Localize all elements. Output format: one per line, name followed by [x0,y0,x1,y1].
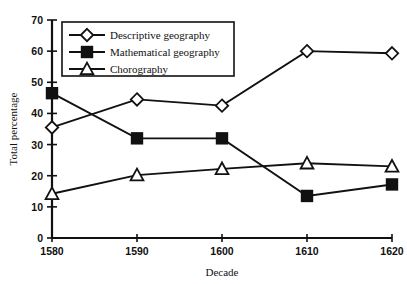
x-tick-label: 1600 [210,245,234,257]
x-axis-title: Decade [206,266,239,278]
series-chorography [46,157,399,199]
x-tick-label: 1580 [40,245,64,257]
y-tick-label: 40 [31,107,43,119]
y-tick-label: 10 [31,201,43,213]
marker-diamond [216,99,228,111]
y-tick-label: 60 [31,45,43,57]
marker-diamond [46,121,58,133]
legend: Descriptive geographyMathematical geogra… [62,22,234,76]
legend-label: Descriptive geography [110,29,210,41]
x-tick-label: 1620 [380,245,404,257]
marker-square [47,88,58,99]
legend-label: Mathematical geography [110,46,220,58]
y-tick-label: 20 [31,170,43,182]
marker-square [82,47,93,58]
chart-container: 01020304050607015801590160016101620Decad… [0,0,407,284]
y-tick-label: 50 [31,76,43,88]
y-tick-label: 0 [37,232,43,244]
line-chart: 01020304050607015801590160016101620Decad… [0,0,407,284]
y-axis-title: Total percentage [7,92,19,165]
marker-diamond [131,93,143,105]
x-tick-label: 1610 [295,245,319,257]
legend-label: Chorography [110,63,169,75]
x-tick-label: 1590 [125,245,149,257]
marker-square [302,191,313,202]
y-tick-label: 30 [31,139,43,151]
marker-square [387,179,398,190]
marker-diamond [386,47,398,59]
marker-square [217,133,228,144]
y-tick-label: 70 [31,14,43,26]
marker-diamond [301,45,313,57]
marker-square [132,133,143,144]
